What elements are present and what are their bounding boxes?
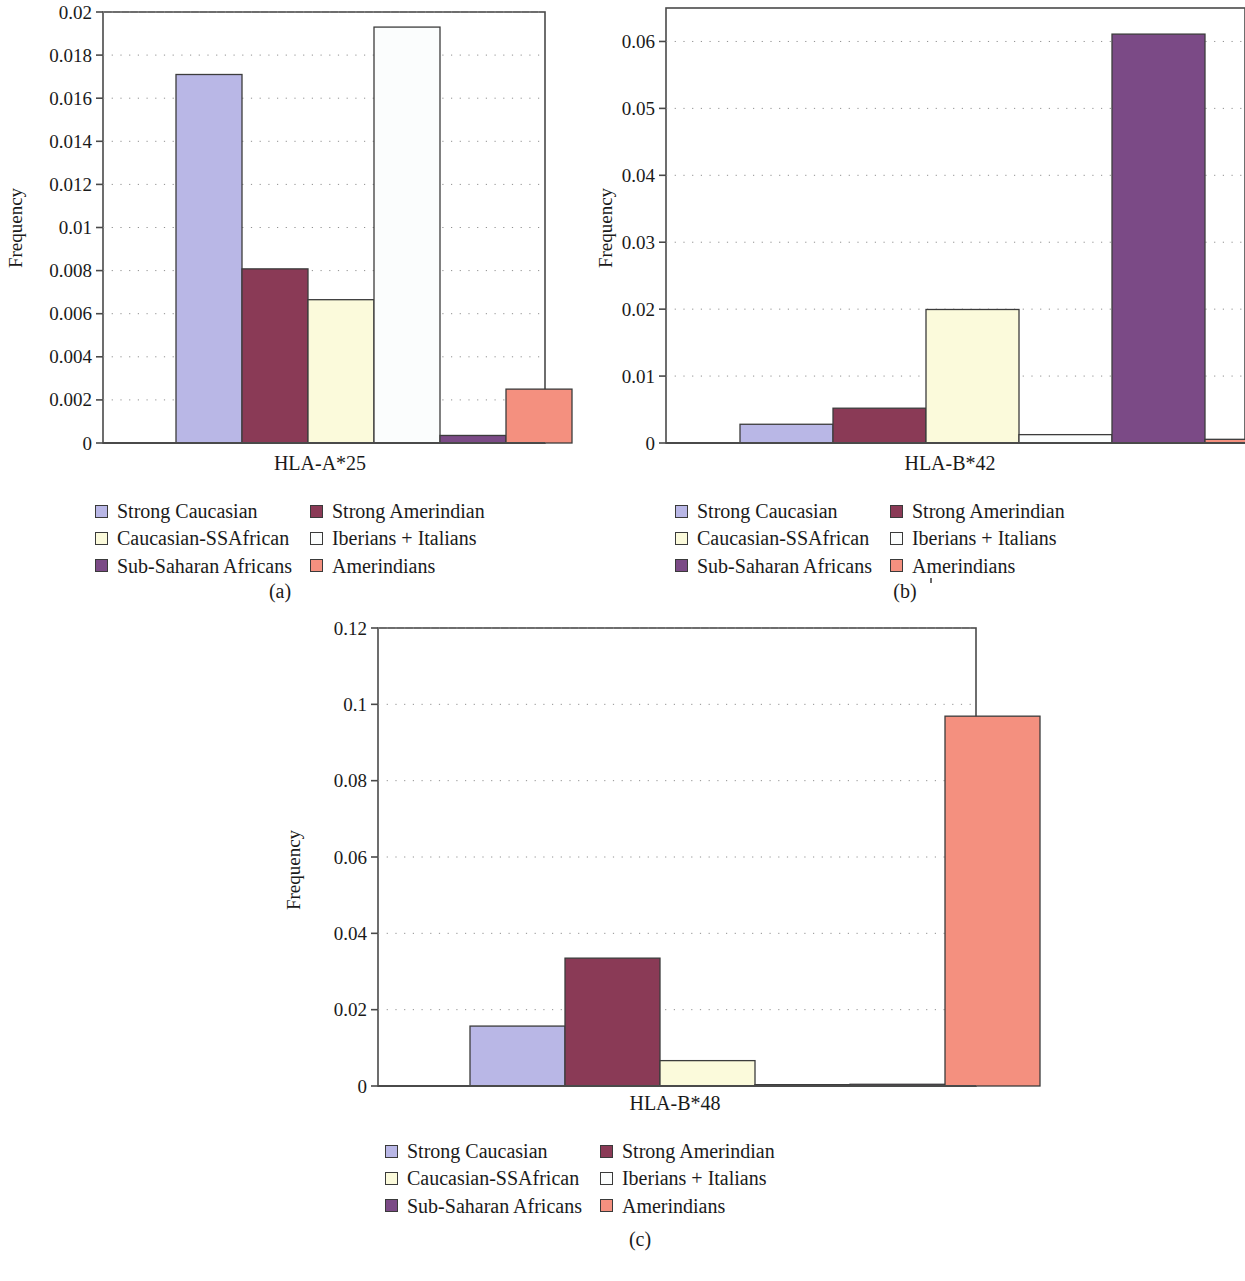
bar-1: [565, 958, 660, 1086]
legend-label: Caucasian-SSAfrican: [697, 525, 869, 551]
legend-label: Strong Amerindian: [622, 1138, 775, 1164]
y-tick-label: 0.006: [49, 303, 92, 324]
y-tick-label: 0.016: [49, 88, 92, 109]
legend-item: Sub-Saharan Africans: [95, 553, 292, 579]
y-tick-label: 0.02: [59, 2, 92, 23]
bar-3: [1019, 435, 1112, 443]
bar-2: [926, 309, 1019, 443]
legend-swatch-0: [675, 505, 688, 518]
legend-swatch-2: [675, 532, 688, 545]
legend-swatch-5: [310, 559, 323, 572]
y-tick-label: 0.1: [343, 694, 367, 715]
legend-item: Strong Caucasian: [675, 498, 872, 524]
x-category-label: HLA-A*25: [274, 452, 366, 474]
bar-0: [740, 424, 833, 443]
legend-swatch-3: [600, 1172, 613, 1185]
legend-swatch-4: [385, 1199, 398, 1212]
legend-c: Strong CaucasianStrong AmerindianCaucasi…: [385, 1138, 775, 1219]
y-tick-label: 0.014: [49, 131, 92, 152]
legend-swatch-3: [310, 532, 323, 545]
y-tick-label: 0: [358, 1076, 368, 1097]
legend-label: Amerindians: [912, 553, 1015, 579]
y-tick-label: 0.004: [49, 346, 92, 367]
legend-label: Caucasian-SSAfrican: [117, 525, 289, 551]
bar-4: [440, 435, 506, 443]
legend-item: Caucasian-SSAfrican: [385, 1165, 582, 1191]
y-axis-title: Frequency: [5, 187, 26, 268]
y-tick-label: 0.06: [334, 847, 367, 868]
y-tick-label: 0.01: [59, 217, 92, 238]
y-tick-label: 0.08: [334, 770, 367, 791]
bar-1: [242, 269, 308, 443]
legend-swatch-4: [675, 559, 688, 572]
x-category-label: HLA-B*48: [629, 1092, 720, 1114]
legend-label: Sub-Saharan Africans: [697, 553, 872, 579]
bar-3: [374, 27, 440, 443]
y-axis-title: Frequency: [283, 829, 304, 910]
legend-item: Caucasian-SSAfrican: [675, 525, 872, 551]
bar-2: [308, 300, 374, 443]
panel-b-caption: (b): [830, 580, 980, 603]
plot-frame: [378, 628, 976, 1086]
legend-label: Amerindians: [622, 1193, 725, 1219]
bar-5: [945, 716, 1040, 1086]
legend-label: Sub-Saharan Africans: [117, 553, 292, 579]
bar-4: [1112, 34, 1205, 443]
x-category-label: HLA-B*42: [904, 452, 995, 474]
y-tick-label: 0.01: [622, 366, 655, 387]
legend-item: Iberians + Italians: [600, 1165, 775, 1191]
y-tick-label: 0.04: [334, 923, 368, 944]
legend-swatch-2: [385, 1172, 398, 1185]
legend-swatch-1: [600, 1145, 613, 1158]
y-tick-label: 0: [83, 433, 93, 454]
bar-0: [470, 1026, 565, 1086]
legend-item: Iberians + Italians: [310, 525, 485, 551]
y-tick-label: 0.018: [49, 45, 92, 66]
legend-item: Sub-Saharan Africans: [675, 553, 872, 579]
y-tick-label: 0.03: [622, 232, 655, 253]
y-tick-label: 0: [646, 433, 656, 454]
y-tick-label: 0.02: [622, 299, 655, 320]
legend-swatch-0: [385, 1145, 398, 1158]
stray-speck: [930, 578, 932, 583]
bar-1: [833, 408, 926, 443]
legend-item: Strong Amerindian: [310, 498, 485, 524]
legend-swatch-2: [95, 532, 108, 545]
legend-label: Iberians + Italians: [622, 1165, 767, 1191]
legend-item: Strong Amerindian: [600, 1138, 775, 1164]
legend-swatch-5: [600, 1199, 613, 1212]
legend-swatch-3: [890, 532, 903, 545]
legend-item: Caucasian-SSAfrican: [95, 525, 292, 551]
legend-label: Amerindians: [332, 553, 435, 579]
legend-a: Strong CaucasianStrong AmerindianCaucasi…: [95, 498, 485, 579]
chart-a: 00.0020.0040.0060.0080.010.0120.0140.016…: [0, 0, 560, 470]
panel-b: 00.010.020.030.040.050.06FrequencyHLA-B*…: [600, 0, 1245, 610]
legend-swatch-4: [95, 559, 108, 572]
panel-c: 00.020.040.060.080.10.12FrequencyHLA-B*4…: [280, 610, 1000, 1281]
panel-a: 00.0020.0040.0060.0080.010.0120.0140.016…: [0, 0, 560, 610]
legend-item: Amerindians: [600, 1193, 775, 1219]
chart-c: 00.020.040.060.080.10.12FrequencyHLA-B*4…: [280, 610, 1000, 1110]
legend-label: Strong Amerindian: [912, 498, 1065, 524]
bar-2: [660, 1061, 755, 1086]
legend-swatch-1: [890, 505, 903, 518]
y-tick-label: 0.06: [622, 31, 655, 52]
legend-item: Strong Caucasian: [95, 498, 292, 524]
y-tick-label: 0.05: [622, 98, 655, 119]
y-tick-label: 0.012: [49, 174, 92, 195]
panel-a-caption: (a): [205, 580, 355, 603]
legend-swatch-5: [890, 559, 903, 572]
y-tick-label: 0.12: [334, 618, 367, 639]
legend-item: Iberians + Italians: [890, 525, 1065, 551]
legend-label: Caucasian-SSAfrican: [407, 1165, 579, 1191]
legend-label: Iberians + Italians: [332, 525, 477, 551]
y-tick-label: 0.008: [49, 260, 92, 281]
legend-label: Sub-Saharan Africans: [407, 1193, 582, 1219]
legend-b: Strong CaucasianStrong AmerindianCaucasi…: [675, 498, 1065, 579]
y-tick-label: 0.02: [334, 999, 367, 1020]
y-tick-label: 0.002: [49, 389, 92, 410]
legend-label: Strong Caucasian: [117, 498, 258, 524]
legend-swatch-0: [95, 505, 108, 518]
legend-item: Strong Amerindian: [890, 498, 1065, 524]
legend-label: Strong Amerindian: [332, 498, 485, 524]
